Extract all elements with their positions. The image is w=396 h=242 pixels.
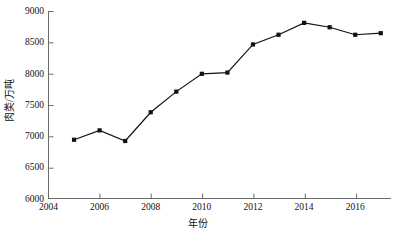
data-point-2012 <box>251 42 255 46</box>
data-point-2016 <box>353 33 357 37</box>
data-point-2011 <box>225 70 229 74</box>
data-point-2015 <box>328 25 332 29</box>
data-point-2005 <box>72 138 76 142</box>
data-point-2014 <box>302 21 306 25</box>
data-point-2006 <box>98 128 102 132</box>
data-point-2017 <box>379 31 383 35</box>
x-tick-label-2012: 2012 <box>243 202 262 212</box>
x-tick-label-2006: 2006 <box>90 202 109 212</box>
chart-figure: 6000650070007500800085009000 20042006200… <box>0 0 396 242</box>
data-point-2010 <box>200 72 204 76</box>
y-tick-label-6500: 6500 <box>0 162 44 172</box>
data-point-2007 <box>123 139 127 143</box>
x-tick-label-2016: 2016 <box>346 202 365 212</box>
y-tick-label-9000: 9000 <box>0 6 44 16</box>
y-tick-label-8500: 8500 <box>0 37 44 47</box>
x-tick-label-2014: 2014 <box>295 202 314 212</box>
x-tick-label-2008: 2008 <box>141 202 160 212</box>
y-axis-title: 肉类/万吨 <box>4 61 15 141</box>
data-point-2008 <box>149 110 153 114</box>
data-point-2013 <box>276 33 280 37</box>
data-point-2009 <box>174 90 178 94</box>
y-tick-label-6000: 6000 <box>0 194 44 204</box>
series-line-meat-output <box>74 23 381 141</box>
x-axis-title: 年份 <box>0 218 396 230</box>
series-markers-meat-output <box>72 21 383 143</box>
x-tick-label-2004: 2004 <box>39 202 58 212</box>
x-tick-label-2010: 2010 <box>192 202 211 212</box>
